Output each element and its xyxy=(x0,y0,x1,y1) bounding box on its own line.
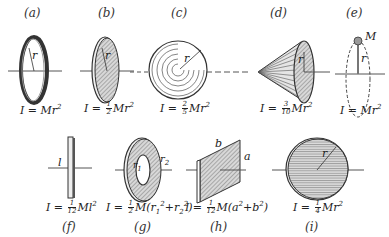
formula-a: I = Mr2 xyxy=(20,103,62,117)
formula-c: I = 25Mr2 xyxy=(160,101,210,116)
label-i: (i) xyxy=(305,220,318,234)
formula-h: I = 112M(a2+b2) xyxy=(185,200,268,215)
figure-c-sphere xyxy=(130,41,250,99)
symbol-r-a: r xyxy=(32,49,37,62)
figure-b-disk xyxy=(80,37,134,103)
label-a: (a) xyxy=(24,6,41,20)
figure-i-disk xyxy=(272,138,364,200)
symbol-r-e: r xyxy=(361,52,366,65)
label-e: (e) xyxy=(346,6,362,20)
formula-g: I = 12M(r12+r22) xyxy=(106,200,193,216)
symbol-r1-g: r1 xyxy=(133,160,142,173)
symbol-r-b: r xyxy=(105,49,110,62)
label-h: (h) xyxy=(210,220,227,234)
symbol-a-h: a xyxy=(244,150,251,163)
figure-f-rod xyxy=(48,137,92,198)
symbol-b-h: b xyxy=(215,137,222,150)
formula-d: I = 310Mr2 xyxy=(260,101,312,116)
symbol-r-d: r xyxy=(298,53,303,66)
symbol-r2-g: r2 xyxy=(160,153,169,167)
label-f: (f) xyxy=(62,220,76,234)
figure-g-annulus xyxy=(115,138,172,202)
label-c: (c) xyxy=(171,6,187,20)
formula-i: I = 14Mr2 xyxy=(293,200,343,215)
symbol-r-i: r xyxy=(322,147,327,160)
formula-f: I = 112Ml2 xyxy=(46,200,97,215)
figure-a-ring xyxy=(8,37,62,103)
symbol-r-c: r xyxy=(184,52,189,65)
label-b: (b) xyxy=(98,6,115,20)
label-g: (g) xyxy=(134,220,151,234)
figure-d-cone xyxy=(258,41,330,103)
symbol-l-f: l xyxy=(58,156,62,169)
label-d: (d) xyxy=(270,6,287,20)
formula-e: I = Mr2 xyxy=(340,103,382,117)
formula-b: I = 12Mr2 xyxy=(84,101,134,116)
symbol-M-e: M xyxy=(365,30,376,43)
